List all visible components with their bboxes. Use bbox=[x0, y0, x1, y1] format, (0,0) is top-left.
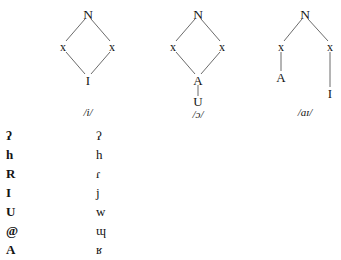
element-symbol-u: U bbox=[6, 202, 66, 221]
tree-node-terminal-i: I bbox=[78, 74, 98, 87]
tree-node-terminal-i: I bbox=[320, 87, 340, 100]
tree-node-terminal-a: A bbox=[271, 71, 291, 84]
phoneme-label-open-o: /ɔ/ bbox=[143, 108, 253, 120]
tree-node-x-right: x bbox=[212, 41, 232, 54]
element-symbol-r: R bbox=[6, 164, 66, 183]
ipa-symbol-alveolar-tap: ɾ bbox=[96, 164, 156, 183]
phoneme-label-ai: /aɪ/ bbox=[250, 106, 341, 118]
element-symbol-schwa: @ bbox=[6, 221, 66, 240]
ipa-symbol-labial-velar-approximant: w bbox=[96, 202, 156, 221]
element-symbol-h: h bbox=[6, 145, 66, 164]
element-to-ipa-correspondence-table: ʔ h R I U @ A ʔ h ɾ j w ɰ ʁ bbox=[0, 126, 341, 260]
ipa-symbol-velar-approximant: ɰ bbox=[96, 221, 156, 240]
element-symbol-a: A bbox=[6, 240, 66, 259]
ipa-symbol-column: ʔ h ɾ j w ɰ ʁ bbox=[96, 126, 156, 259]
tree-node-x-left: x bbox=[163, 41, 183, 54]
tree-diagram-ai: N x x A I /aɪ/ bbox=[250, 0, 341, 125]
tree-node-x-right: x bbox=[320, 41, 340, 54]
tree-node-terminal-a: A bbox=[188, 74, 208, 87]
tree-node-root: N bbox=[295, 8, 315, 21]
element-symbol-i: I bbox=[6, 183, 66, 202]
ipa-symbol-uvular-fricative: ʁ bbox=[96, 240, 156, 259]
phonological-structure-figure: N x x I /i/ N x x A U /ɔ/ N x x A I bbox=[0, 0, 341, 260]
tree-node-x-left: x bbox=[271, 41, 291, 54]
ipa-symbol-palatal-approximant: j bbox=[96, 183, 156, 202]
tree-node-x-left: x bbox=[53, 41, 73, 54]
tree-diagram-open-o: N x x A U /ɔ/ bbox=[143, 0, 253, 125]
tree-node-x-right: x bbox=[102, 41, 122, 54]
tree-node-terminal-u: U bbox=[188, 95, 208, 108]
ipa-symbol-h: h bbox=[96, 145, 156, 164]
element-symbol-glottal-stop: ʔ bbox=[6, 126, 66, 145]
tree-node-root: N bbox=[78, 8, 98, 21]
tree-node-root: N bbox=[188, 8, 208, 21]
ipa-symbol-glottal-stop: ʔ bbox=[96, 126, 156, 145]
element-symbol-column: ʔ h R I U @ A bbox=[6, 126, 66, 259]
phoneme-label-i: /i/ bbox=[33, 106, 143, 118]
tree-diagram-i: N x x I /i/ bbox=[33, 0, 143, 125]
